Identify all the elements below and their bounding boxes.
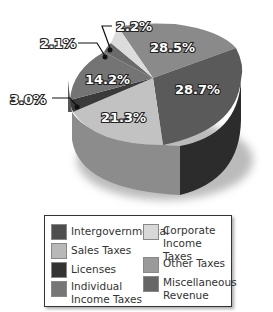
label-28-5: 28.5% bbox=[150, 40, 195, 55]
legend: Intergovernmental Sales Taxes Licenses I… bbox=[44, 215, 232, 307]
pie-chart: 2.2% 2.1% 28.5% 14.2% 28.7% 3.0% 21.3% bbox=[0, 0, 273, 210]
label-28-7: 28.7% bbox=[175, 82, 220, 97]
legend-label-other-taxes: Other Taxes bbox=[163, 257, 225, 270]
legend-label-miscellaneous: Miscellaneous Revenue bbox=[163, 276, 231, 302]
legend-swatch-licenses bbox=[51, 262, 67, 278]
legend-swatch-intergovernmental bbox=[51, 224, 67, 240]
leader-dot bbox=[108, 48, 113, 53]
legend-swatch-corporate bbox=[143, 224, 159, 240]
legend-label-sales-taxes: Sales Taxes bbox=[71, 244, 131, 257]
legend-label-licenses: Licenses bbox=[71, 263, 116, 276]
legend-swatch-sales-taxes bbox=[51, 243, 67, 259]
legend-swatch-miscellaneous bbox=[143, 276, 159, 292]
legend-swatch-other-taxes bbox=[143, 257, 159, 273]
label-14-2: 14.2% bbox=[85, 72, 130, 87]
legend-swatch-individual-income bbox=[51, 281, 67, 297]
leader-dot bbox=[75, 105, 80, 110]
label-2-1: 2.1% bbox=[40, 36, 76, 51]
label-2-2: 2.2% bbox=[116, 19, 152, 34]
label-21-3: 21.3% bbox=[101, 110, 146, 125]
legend-label-individual-income: Individual Income Taxes bbox=[71, 280, 151, 306]
label-3-0: 3.0% bbox=[10, 92, 46, 107]
leader-dot bbox=[103, 55, 108, 60]
